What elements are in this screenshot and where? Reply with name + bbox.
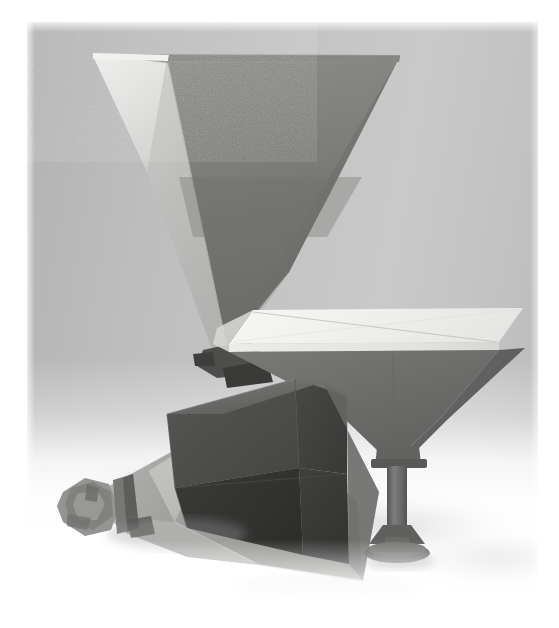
photograph-canvas: Photograph of three metal pyramidal horn… xyxy=(0,0,559,628)
pedestal-contact-shadow xyxy=(363,554,435,570)
antenna-scene xyxy=(27,22,538,600)
large-horn-inner-band xyxy=(179,177,362,237)
photo-area: Photograph of three metal pyramidal horn… xyxy=(27,22,538,600)
coaxial-feed-connector xyxy=(57,478,119,536)
large-horn-rim-shade xyxy=(168,55,400,62)
small-horn-cavity-lower-right xyxy=(299,468,349,564)
pedestal-base-top xyxy=(368,542,426,556)
pedestal-column xyxy=(387,466,407,530)
large-horn-throat-bolt xyxy=(193,352,215,366)
